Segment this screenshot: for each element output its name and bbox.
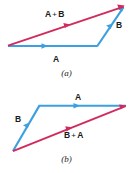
panel-b-resultant-label: B+A xyxy=(64,131,84,140)
vector-addition-figure: A+B A B (a) A B B+A (b) xyxy=(0,0,133,173)
panel-a-resultant-vector xyxy=(8,4,125,45)
panel-b-vector-a-arrowhead xyxy=(74,103,81,109)
panel-b-graphics xyxy=(13,103,126,151)
vector-diagram-canvas xyxy=(0,0,133,173)
panel-b-vector-a xyxy=(39,103,126,109)
panel-b-vector-b xyxy=(13,106,39,151)
panel-b-resultant-vector xyxy=(13,104,126,151)
panel-a-resultant-label: A+B xyxy=(45,10,65,19)
panel-a-vector-a xyxy=(8,43,97,49)
panel-b-resultant-label-second: A xyxy=(77,130,83,140)
panel-a-base-label: A xyxy=(53,55,59,64)
panel-b-side-label: B xyxy=(15,115,21,124)
panel-a-caption: (a) xyxy=(0,69,133,78)
panel-b-caption: (b) xyxy=(0,155,133,164)
panel-a-vector-a-arrowhead xyxy=(42,43,49,49)
panel-b-base-label: A xyxy=(75,93,81,102)
panel-a-resultant-label-second: B xyxy=(58,9,64,19)
panel-a-side-label: B xyxy=(116,21,122,30)
panel-a-graphics xyxy=(8,4,125,48)
panel-b-vector-b-shaft xyxy=(13,106,39,151)
